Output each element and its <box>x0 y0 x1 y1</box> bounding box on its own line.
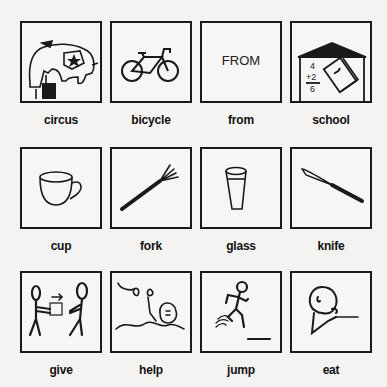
symbol-label: from <box>200 113 282 127</box>
symbol-card-circus: circus <box>20 21 102 127</box>
symbol-box <box>200 271 282 353</box>
school-icon: 4 +2 6 <box>292 23 370 101</box>
symbol-label: fork <box>110 239 192 253</box>
glass-icon <box>202 149 280 227</box>
symbol-card-fork: fork <box>110 147 192 253</box>
symbol-label: eat <box>290 363 372 377</box>
symbol-box <box>200 147 282 229</box>
svg-text:+2: +2 <box>306 72 316 82</box>
eat-icon <box>292 273 370 351</box>
symbol-box <box>20 147 102 229</box>
symbol-box <box>110 21 192 103</box>
knife-icon <box>292 149 370 227</box>
symbol-box <box>290 271 372 353</box>
from-word: FROM <box>202 53 280 68</box>
symbol-box <box>20 271 102 353</box>
symbol-label: cup <box>20 239 102 253</box>
elephant-icon <box>22 23 100 101</box>
fork-icon <box>112 149 190 227</box>
symbol-label: glass <box>200 239 282 253</box>
svg-text:4: 4 <box>310 61 315 71</box>
help-icon <box>112 273 190 351</box>
jump-icon <box>202 273 280 351</box>
symbol-label: jump <box>200 363 282 377</box>
symbol-card-school: 4 +2 6 school <box>290 21 372 127</box>
symbol-box: FROM <box>200 21 282 103</box>
symbol-card-bicycle: bicycle <box>110 21 192 127</box>
symbol-card-cup: cup <box>20 147 102 253</box>
symbol-label: help <box>110 363 192 377</box>
symbol-card-knife: knife <box>290 147 372 253</box>
symbol-box: 4 +2 6 <box>290 21 372 103</box>
symbol-card-jump: jump <box>200 271 282 377</box>
symbol-card-glass: glass <box>200 147 282 253</box>
symbol-label: bicycle <box>110 113 192 127</box>
symbol-label: knife <box>290 239 372 253</box>
symbol-box <box>110 147 192 229</box>
symbol-box <box>110 271 192 353</box>
cup-icon <box>22 149 100 227</box>
symbol-card-give: give <box>20 271 102 377</box>
symbol-card-help: help <box>110 271 192 377</box>
symbol-box <box>290 147 372 229</box>
svg-text:6: 6 <box>310 84 315 94</box>
symbol-card-eat: eat <box>290 271 372 377</box>
symbol-label: circus <box>20 113 102 127</box>
symbol-card-from: FROM from <box>200 21 282 127</box>
bicycle-icon <box>112 23 190 101</box>
symbol-label: school <box>290 113 372 127</box>
give-icon <box>22 273 100 351</box>
symbol-label: give <box>20 363 102 377</box>
symbol-box <box>20 21 102 103</box>
